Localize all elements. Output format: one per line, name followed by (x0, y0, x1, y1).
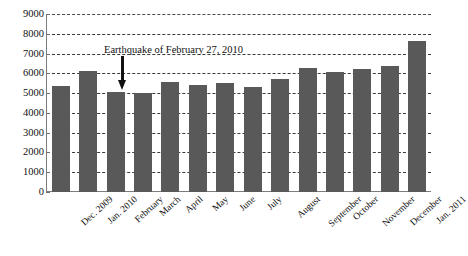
arrow-shaft (121, 56, 124, 82)
bar-item (107, 14, 125, 192)
arrow-head (118, 80, 126, 90)
bar-item (244, 14, 262, 192)
bar (299, 68, 317, 192)
y-axis-tick-label: 4000 (2, 108, 44, 119)
bar (244, 87, 262, 192)
bar-item (189, 14, 207, 192)
bar (271, 79, 289, 192)
y-axis-tick-label: 7000 (2, 49, 44, 60)
bar (326, 72, 344, 192)
y-axis-tick-mark (46, 54, 50, 55)
bar-item (134, 14, 152, 192)
bar-item (161, 14, 179, 192)
bar-item (408, 14, 426, 192)
y-axis-tick-mark (46, 172, 50, 173)
x-axis-tick-label: July (265, 194, 283, 212)
bar (52, 86, 70, 192)
y-axis-tick-label: 2000 (2, 147, 44, 158)
x-axis-tick-label: August (295, 194, 322, 220)
bar (79, 71, 97, 192)
bar (134, 93, 152, 192)
y-axis-tick-mark (46, 192, 50, 193)
y-axis-tick-label: 8000 (2, 29, 44, 40)
down-arrow-icon (118, 56, 127, 91)
y-axis-tick-label: 9000 (2, 9, 44, 20)
bar (353, 69, 371, 192)
y-axis-tick-mark (46, 93, 50, 94)
bar (408, 41, 426, 192)
bar-item (271, 14, 289, 192)
bar (189, 85, 207, 192)
x-axis-tick-label: April (184, 194, 206, 215)
earthquake-annotation-label: Earthquake of February 27, 2010 (104, 44, 243, 55)
y-axis-tick-label: 0 (2, 187, 44, 198)
y-axis-tick-label: 6000 (2, 68, 44, 79)
bar-item (326, 14, 344, 192)
bar (381, 66, 399, 192)
y-axis-tick-mark (46, 34, 50, 35)
bar-item (353, 14, 371, 192)
y-axis-tick-mark (46, 133, 50, 134)
bar-series (47, 14, 431, 192)
x-axis-tick-label: May (210, 194, 230, 213)
bar-item (381, 14, 399, 192)
bar-item (52, 14, 70, 192)
y-axis-tick-mark (46, 152, 50, 153)
y-axis-tick-mark (46, 14, 50, 15)
y-axis: 0100020003000400050006000700080009000 (0, 0, 44, 200)
y-axis-tick-mark (46, 73, 50, 74)
bar (216, 83, 234, 192)
bar-item (299, 14, 317, 192)
x-axis-tick-label: June (238, 194, 258, 213)
bar-item (79, 14, 97, 192)
y-axis-tick-mark (46, 113, 50, 114)
bar (161, 82, 179, 192)
y-axis-tick-label: 1000 (2, 167, 44, 178)
bar-item (216, 14, 234, 192)
y-axis-tick-label: 5000 (2, 88, 44, 99)
x-axis-labels: Dec. 2009Jan. 2010FebruaryMarchAprilMayJ… (47, 194, 431, 256)
y-axis-tick-label: 3000 (2, 128, 44, 139)
bar (107, 92, 125, 192)
